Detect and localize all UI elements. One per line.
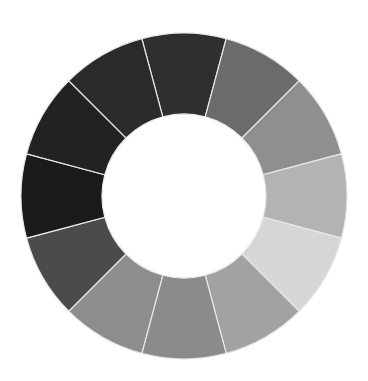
grayscale-donut-wheel <box>0 0 368 381</box>
